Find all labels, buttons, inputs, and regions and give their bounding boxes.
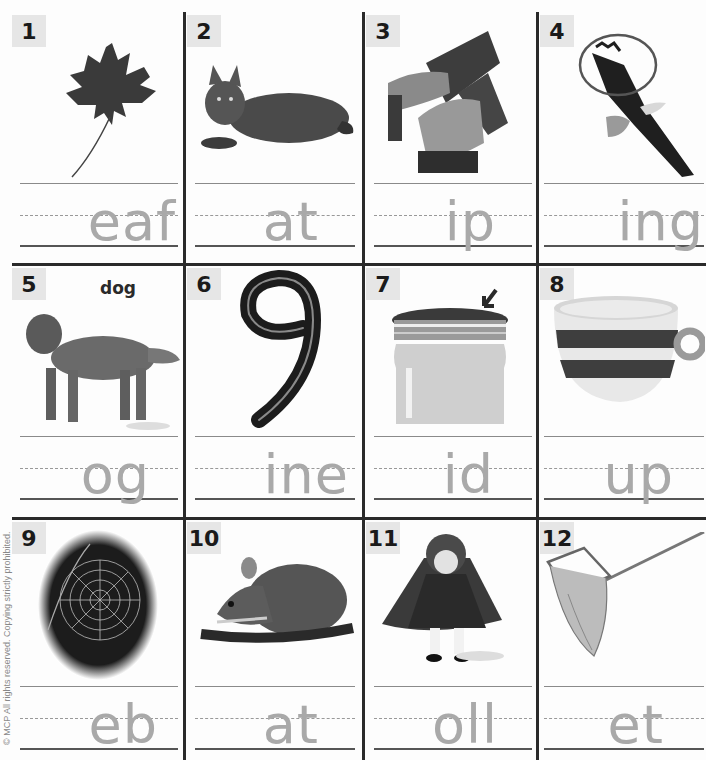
grid-divider-h1 (12, 263, 706, 266)
item-card-3: 3 ip (366, 15, 533, 260)
worksheet-page: © MCP All rights reserved. Copying stric… (0, 0, 706, 760)
traced-letters: ip (445, 195, 496, 249)
fishing-net-icon (544, 532, 706, 662)
item-number-badge: 2 (187, 15, 221, 47)
doll-icon (374, 528, 514, 678)
item-card-6: 6 ine (187, 268, 359, 515)
grid-divider-v3 (536, 12, 539, 760)
grid-divider-v1 (183, 12, 186, 760)
item-number-badge: 5 (12, 268, 46, 300)
traced-letters: ing (617, 195, 704, 249)
item-card-1: 1 eaf (12, 15, 180, 260)
traced-letters: og (81, 448, 150, 502)
item-card-5: 5 dog og (12, 268, 180, 515)
item-card-9: 9 eb (12, 522, 180, 760)
jar-lid-icon (392, 288, 522, 428)
hands-ripping-paper-icon (388, 23, 513, 173)
item-card-2: 2 at (187, 15, 359, 260)
picture-caption: dog (100, 278, 136, 298)
item-card-7: 7 id (366, 268, 533, 515)
grid-divider-v2 (362, 12, 365, 760)
item-card-11: 11 oll (366, 522, 533, 760)
handwriting-lines[interactable]: id (374, 436, 532, 500)
traced-letters: id (443, 448, 494, 502)
traced-letters: eb (89, 698, 159, 752)
traced-letters: eaf (88, 195, 176, 249)
item-number-badge: 4 (540, 15, 574, 47)
item-card-4: 4 ing (540, 15, 706, 260)
handwriting-lines[interactable]: at (195, 686, 355, 750)
cat-icon (197, 63, 357, 158)
traced-letters: up (603, 448, 674, 502)
eagle-icon (574, 25, 704, 185)
striped-cup-icon (550, 294, 705, 409)
handwriting-lines[interactable]: og (20, 436, 178, 500)
traced-letters: oll (432, 698, 498, 752)
handwriting-lines[interactable]: et (544, 686, 704, 750)
handwriting-lines[interactable]: eaf (20, 183, 178, 247)
handwriting-lines[interactable]: ing (544, 183, 704, 247)
traced-letters: et (608, 698, 664, 752)
handwriting-lines[interactable]: eb (20, 686, 178, 750)
traced-letters: ine (264, 448, 349, 502)
item-card-12: 12 et (540, 522, 706, 760)
rat-icon (197, 548, 357, 648)
item-number-badge: 6 (187, 268, 221, 300)
item-card-8: 8 up (540, 268, 706, 515)
traced-letters: at (263, 698, 319, 752)
item-number-badge: 1 (12, 15, 46, 47)
traced-letters: at (263, 195, 319, 249)
grid-divider-h2 (12, 517, 706, 520)
handwriting-lines[interactable]: ine (195, 436, 355, 500)
item-card-10: 10 at (187, 522, 359, 760)
number-nine-icon (231, 270, 331, 428)
handwriting-lines[interactable]: oll (374, 686, 532, 750)
handwriting-lines[interactable]: up (544, 436, 704, 500)
maple-leaf-icon (52, 25, 172, 185)
dog-icon (18, 308, 183, 433)
handwriting-lines[interactable]: at (195, 183, 355, 247)
handwriting-lines[interactable]: ip (374, 183, 532, 247)
copyright-notice: © MCP All rights reserved. Copying stric… (2, 531, 12, 745)
spider-web-icon (38, 530, 158, 680)
